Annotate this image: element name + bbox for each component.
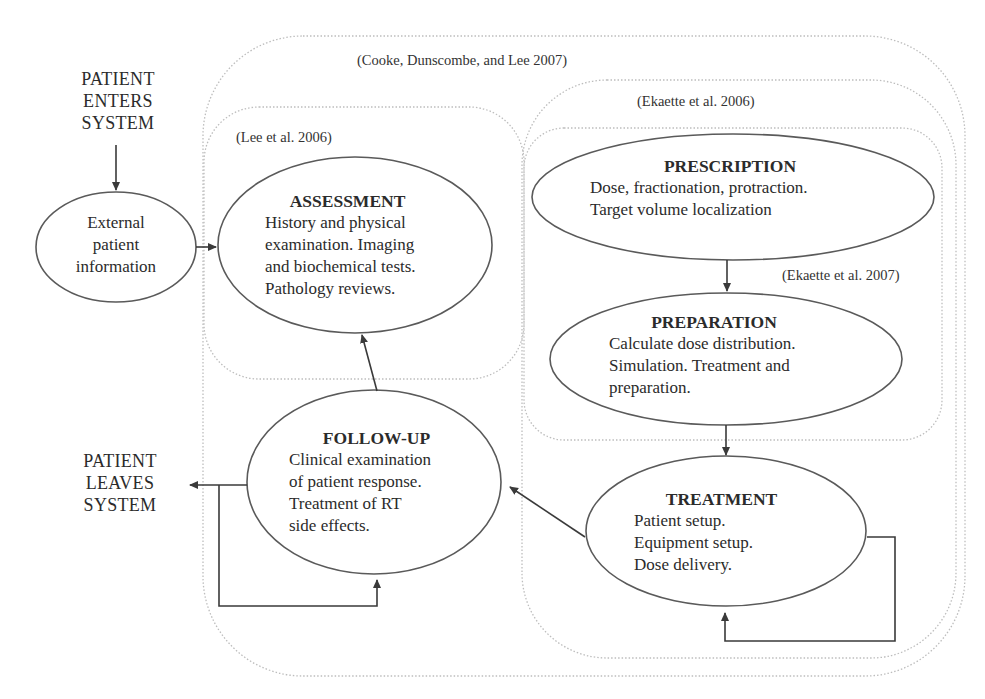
node-assessment-title: ASSESSMENT [265,190,430,212]
group-ekaette2006-label: (Ekaette et al. 2006) [637,92,755,110]
node-prescription-title: PRESCRIPTION [590,155,870,177]
edge-treatment-to-followup [510,487,585,537]
group-lee-label: (Lee et al. 2006) [236,128,332,146]
node-followup-title: FOLLOW-UP [289,427,464,449]
terminal-enter: PATIENT ENTERS SYSTEM [58,68,178,134]
node-preparation: PREPARATION Calculate dose distribution.… [609,311,869,399]
group-cooke-label: (Cooke, Dunscombe, and Lee 2007) [357,51,567,69]
node-assessment: ASSESSMENT History and physical examinat… [265,190,465,300]
edge-followup-to-assessment [362,335,377,391]
node-prescription: PRESCRIPTION Dose, fractionation, protra… [590,155,880,221]
node-preparation-title: PREPARATION [609,311,819,333]
group-ekaette2007-label: (Ekaette et al. 2007) [782,266,900,284]
node-followup: FOLLOW-UP Clinical examination of patien… [289,427,479,537]
node-external: External patient information [56,212,176,278]
node-treatment: TREATMENT Patient setup. Equipment setup… [634,488,804,576]
terminal-leave: PATIENT LEAVES SYSTEM [60,450,180,516]
node-treatment-title: TREATMENT [634,488,809,510]
